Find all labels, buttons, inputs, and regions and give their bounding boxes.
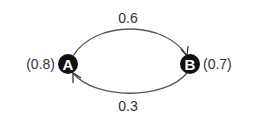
edge-a-to-b-label: 0.6 [118,10,138,26]
node-a-value: (0.8) [26,56,55,72]
edge-b-to-a-label: 0.3 [118,98,138,114]
markov-diagram: A B (0.8) (0.7) 0.6 0.3 [0,0,254,118]
edge-b-to-a [73,73,187,93]
node-b-value: (0.7) [203,56,232,72]
edge-a-to-b [73,29,187,56]
node-b-label: B [185,56,196,73]
node-a-label: A [63,56,74,73]
